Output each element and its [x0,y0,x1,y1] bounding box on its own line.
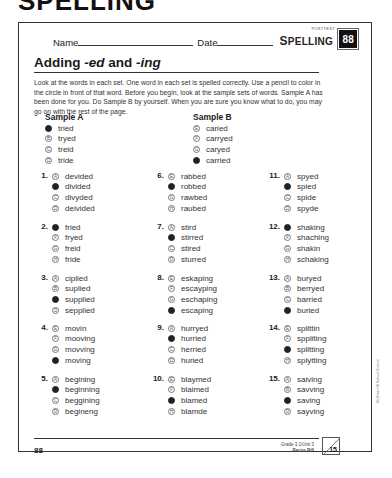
answer-option[interactable]: Ecaried [193,123,233,134]
empty-bubble-icon[interactable]: D [284,205,291,212]
answer-option[interactable]: Fcarryed [193,134,233,145]
answer-option[interactable]: Dhuried [168,355,208,366]
answer-option[interactable]: Cbeggining [52,395,100,406]
filled-bubble-icon[interactable]: F [168,183,175,190]
answer-option[interactable]: Adevided [52,171,95,182]
empty-bubble-icon[interactable]: E [168,173,175,180]
filled-bubble-icon[interactable]: A [45,125,52,132]
empty-bubble-icon[interactable]: D [168,357,175,364]
answer-option[interactable]: Csupplied [52,294,95,305]
answer-option[interactable]: Hfride [52,254,83,265]
answer-option[interactable]: Gmovving [52,344,95,355]
empty-bubble-icon[interactable]: C [168,245,175,252]
empty-bubble-icon[interactable]: C [284,194,291,201]
empty-bubble-icon[interactable]: H [284,357,291,364]
filled-bubble-icon[interactable]: E [52,224,59,231]
answer-option[interactable]: Geschaping [168,294,217,305]
filled-bubble-icon[interactable]: G [284,346,291,353]
answer-option[interactable]: Ddeivided [52,203,95,214]
answer-option[interactable]: Bstirred [168,233,206,244]
filled-bubble-icon[interactable]: B [52,183,59,190]
answer-option[interactable]: Bbeginning [52,385,100,396]
answer-option[interactable]: Hescaping [168,305,217,316]
answer-option[interactable]: Eblaymed [168,374,211,385]
answer-option[interactable]: Efried [52,222,83,233]
answer-option[interactable]: Hraubed [168,203,207,214]
answer-option[interactable]: Fmooving [52,334,95,345]
empty-bubble-icon[interactable]: F [193,135,200,142]
answer-option[interactable]: Gcaryed [193,144,233,155]
answer-option[interactable]: Hblamde [168,406,211,417]
empty-bubble-icon[interactable]: A [168,325,175,332]
answer-option[interactable]: Dsayving [284,406,324,417]
empty-bubble-icon[interactable]: C [45,146,52,153]
empty-bubble-icon[interactable]: B [45,135,52,142]
answer-option[interactable]: Dbegineng [52,406,100,417]
empty-bubble-icon[interactable]: E [168,376,175,383]
answer-option[interactable]: Aspyed [284,171,318,182]
filled-bubble-icon[interactable]: H [168,307,175,314]
empty-bubble-icon[interactable]: A [52,376,59,383]
answer-option[interactable]: Cspide [284,192,318,203]
empty-bubble-icon[interactable]: F [168,386,175,393]
answer-option[interactable]: Hschaking [284,254,329,265]
empty-bubble-icon[interactable]: B [52,285,59,292]
filled-bubble-icon[interactable]: H [193,157,200,164]
date-field[interactable] [217,45,273,46]
answer-option[interactable]: Fblaimed [168,385,211,396]
answer-option[interactable]: Cstired [168,243,206,254]
answer-option[interactable]: Bsuplied [52,284,95,295]
answer-option[interactable]: Ahurryed [168,323,208,334]
empty-bubble-icon[interactable]: C [168,346,175,353]
answer-option[interactable]: Fescayping [168,284,217,295]
empty-bubble-icon[interactable]: G [52,245,59,252]
answer-option[interactable]: Bdivided [52,182,95,193]
empty-bubble-icon[interactable]: F [284,234,291,241]
empty-bubble-icon[interactable]: F [52,234,59,241]
empty-bubble-icon[interactable]: G [284,245,291,252]
answer-option[interactable]: Erabbed [168,171,207,182]
empty-bubble-icon[interactable]: G [168,296,175,303]
answer-option[interactable]: Fshaching [284,233,329,244]
empty-bubble-icon[interactable]: A [52,173,59,180]
answer-option[interactable]: Frobbed [168,182,207,193]
empty-bubble-icon[interactable]: F [52,335,59,342]
answer-option[interactable]: Bberryed [284,284,324,295]
answer-option[interactable]: Cbarried [284,294,324,305]
answer-option[interactable]: Atried [45,123,83,134]
empty-bubble-icon[interactable]: H [168,408,175,415]
answer-option[interactable]: Dburied [284,305,324,316]
filled-bubble-icon[interactable]: C [284,397,291,404]
empty-bubble-icon[interactable]: A [168,224,175,231]
empty-bubble-icon[interactable]: H [52,256,59,263]
answer-option[interactable]: Cherried [168,344,208,355]
answer-option[interactable]: Gblamed [168,395,211,406]
answer-option[interactable]: Eeskaping [168,273,217,284]
empty-bubble-icon[interactable]: A [284,376,291,383]
answer-option[interactable]: Grawbed [168,192,207,203]
filled-bubble-icon[interactable]: B [52,386,59,393]
filled-bubble-icon[interactable]: G [168,397,175,404]
empty-bubble-icon[interactable]: D [168,256,175,263]
empty-bubble-icon[interactable]: E [284,325,291,332]
empty-bubble-icon[interactable]: E [168,275,175,282]
answer-option[interactable]: Hcarried [193,155,233,166]
answer-option[interactable]: Ffryed [52,233,83,244]
answer-option[interactable]: Hsplytting [284,355,326,366]
answer-option[interactable]: Astird [168,222,206,233]
answer-option[interactable]: Cdivyded [52,192,95,203]
filled-bubble-icon[interactable]: B [284,183,291,190]
answer-option[interactable]: Abegining [52,374,100,385]
empty-bubble-icon[interactable]: E [193,125,200,132]
answer-option[interactable]: Gsplitting [284,344,326,355]
filled-bubble-icon[interactable]: D [284,307,291,314]
empty-bubble-icon[interactable]: D [284,408,291,415]
answer-option[interactable]: Asaiving [284,374,324,385]
answer-option[interactable]: Hmoving [52,355,95,366]
empty-bubble-icon[interactable]: D [45,157,52,164]
answer-option[interactable]: Dsturred [168,254,206,265]
empty-bubble-icon[interactable]: D [52,408,59,415]
empty-bubble-icon[interactable]: A [52,275,59,282]
answer-option[interactable]: Bspied [284,182,318,193]
empty-bubble-icon[interactable]: D [52,307,59,314]
